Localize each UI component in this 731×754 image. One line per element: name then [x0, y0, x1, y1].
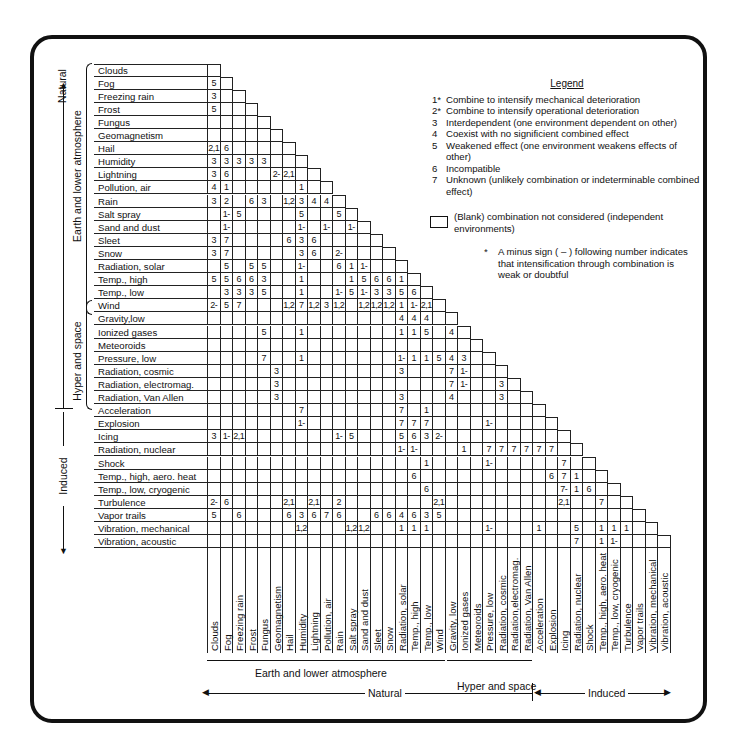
matrix-cell	[382, 260, 395, 273]
matrix-cell: 4	[420, 312, 433, 325]
matrix-cell	[457, 496, 470, 509]
matrix-cell	[357, 535, 370, 548]
matrix-cell	[370, 417, 383, 430]
matrix-cell	[345, 234, 358, 247]
matrix-cell	[232, 326, 245, 339]
matrix-cell	[470, 430, 483, 443]
matrix-cell	[620, 509, 633, 522]
matrix-cell	[407, 339, 420, 352]
matrix-cell	[382, 483, 395, 496]
step-line	[532, 404, 546, 405]
matrix-cell	[482, 352, 495, 365]
matrix-cell	[357, 352, 370, 365]
matrix-cell	[220, 457, 233, 470]
matrix-cell	[470, 470, 483, 483]
matrix-cell	[357, 326, 370, 339]
matrix-cell	[520, 483, 533, 496]
hyper-bottom-brace	[447, 660, 532, 661]
row-right-edge	[270, 116, 271, 129]
matrix-cell: 7	[445, 365, 458, 378]
matrix-cell	[345, 417, 358, 430]
matrix-cell	[220, 417, 233, 430]
matrix-cell: 2	[332, 496, 345, 509]
column-label: Radiation, nuclear	[570, 548, 583, 653]
matrix-cell	[370, 483, 383, 496]
matrix-cell	[257, 234, 270, 247]
matrix-cell	[520, 404, 533, 417]
matrix-cell: 5	[432, 509, 445, 522]
matrix-cell	[307, 404, 320, 417]
matrix-cell: 6	[245, 273, 258, 286]
matrix-cell: 1-	[482, 417, 495, 430]
matrix-cell	[332, 378, 345, 391]
matrix-cell	[320, 273, 333, 286]
matrix-cell: 7	[395, 404, 408, 417]
column-label-text: Temp., high	[409, 602, 420, 652]
matrix-cell	[470, 391, 483, 404]
matrix-cell: 1-	[407, 443, 420, 456]
matrix-cell	[282, 522, 295, 535]
matrix-cell: 4	[207, 181, 220, 194]
matrix-cell: 6	[407, 509, 420, 522]
matrix-cell	[232, 195, 245, 208]
matrix-cell	[457, 430, 470, 443]
matrix-cell: 7	[295, 299, 308, 312]
matrix-cell	[207, 326, 220, 339]
column-label: Snow	[382, 548, 395, 653]
column-label-text: Acceleration	[534, 598, 545, 651]
row-label: Pressure, low	[94, 352, 207, 365]
row-right-edge	[220, 64, 221, 77]
matrix-cell: 3	[295, 234, 308, 247]
matrix-cell	[532, 417, 545, 430]
matrix-cell: 1-	[457, 378, 470, 391]
matrix-cell: 6	[220, 142, 233, 155]
matrix-cell	[470, 417, 483, 430]
matrix-cell	[345, 365, 358, 378]
matrix-cell	[320, 483, 333, 496]
matrix-cell	[457, 522, 470, 535]
matrix-cell	[270, 457, 283, 470]
matrix-cell: 3	[495, 391, 508, 404]
column-label-text: Sand and dust	[359, 589, 370, 651]
matrix-cell: 3	[420, 430, 433, 443]
row-label: Fog	[94, 77, 207, 90]
step-line	[257, 116, 271, 117]
column-label-text: Rain	[334, 631, 345, 651]
column-label: Wind	[432, 548, 445, 653]
matrix-cell	[432, 404, 445, 417]
column-label: Temp., low	[420, 548, 433, 653]
matrix-cell: 6	[407, 470, 420, 483]
matrix-cell: 6	[407, 430, 420, 443]
matrix-cell	[520, 496, 533, 509]
matrix-cell	[207, 404, 220, 417]
group-hyper-label: Hyper and space	[71, 316, 83, 406]
matrix-cell	[307, 273, 320, 286]
matrix-cell	[470, 378, 483, 391]
matrix-cell	[245, 522, 258, 535]
matrix-cell	[332, 234, 345, 247]
matrix-cell	[232, 312, 245, 325]
matrix-cell: 3	[207, 168, 220, 181]
matrix-cell	[282, 483, 295, 496]
matrix-cell	[520, 430, 533, 443]
row-label: Ionized gases	[94, 326, 207, 339]
matrix-cell: 2,1	[207, 142, 220, 155]
matrix-cell	[307, 391, 320, 404]
matrix-cell	[320, 286, 333, 299]
matrix-cell	[370, 326, 383, 339]
matrix-cell	[482, 404, 495, 417]
matrix-cell	[395, 378, 408, 391]
row-label: Fungus	[94, 116, 207, 129]
row-right-edge	[595, 457, 596, 470]
matrix-cell: 7	[257, 352, 270, 365]
matrix-cell: 1-	[295, 221, 308, 234]
matrix-cell	[257, 430, 270, 443]
matrix-cell	[270, 509, 283, 522]
matrix-cell	[257, 365, 270, 378]
matrix-cell	[270, 155, 283, 168]
matrix-cell	[207, 443, 220, 456]
matrix-cell	[257, 522, 270, 535]
matrix-cell	[370, 260, 383, 273]
matrix-cell	[532, 509, 545, 522]
matrix-cell	[382, 378, 395, 391]
